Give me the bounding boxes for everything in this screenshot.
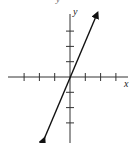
- top-cropped-label: y: [56, 0, 60, 4]
- coordinate-plane: [0, 0, 137, 143]
- x-axis-label: x: [124, 78, 128, 89]
- y-axis-label: y: [73, 6, 77, 17]
